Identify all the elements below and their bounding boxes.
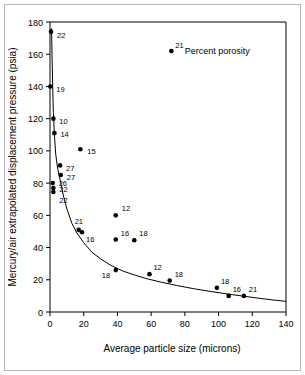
data-point-label: 27: [66, 164, 74, 173]
data-point-label: 18: [139, 229, 147, 238]
x-tick-label: 40: [112, 319, 122, 329]
data-point: [113, 213, 118, 218]
data-point-label: 16: [233, 285, 241, 294]
x-tick-label: 60: [146, 319, 156, 329]
data-point-label: 22: [59, 185, 67, 194]
x-axis-ticks: 020406080100120140: [47, 312, 293, 329]
data-point: [51, 116, 56, 121]
data-point: [215, 286, 220, 291]
y-tick-label: 60: [33, 211, 43, 221]
data-point: [80, 230, 85, 235]
data-point: [78, 147, 83, 152]
data-point: [242, 294, 247, 299]
y-tick-label: 0: [38, 308, 43, 318]
data-point-label: 21: [175, 41, 183, 50]
data-point-label: 16: [121, 229, 129, 238]
data-point-label: 15: [87, 147, 95, 156]
axis-frame: [50, 22, 286, 312]
scatter-plot-svg: 020406080100120140 020406080100120140160…: [0, 0, 305, 375]
trend-curve: [52, 28, 286, 301]
data-point: [50, 181, 55, 186]
y-axis-title: Mercury/air extrapolated displacement pr…: [7, 48, 18, 287]
x-tick-label: 80: [180, 319, 190, 329]
y-axis-ticks: 020406080100120140160180: [28, 18, 50, 318]
data-point: [58, 173, 63, 178]
y-tick-label: 140: [28, 82, 43, 92]
data-point-label: 14: [60, 130, 68, 139]
data-point-label: 12: [122, 204, 130, 213]
data-points: 2219101415272726222212211616181812181816…: [48, 29, 257, 298]
y-tick-label: 40: [33, 243, 43, 253]
data-point-label: 21: [249, 285, 257, 294]
y-tick-label: 20: [33, 275, 43, 285]
data-point: [132, 238, 137, 243]
x-axis-title: Average particle size (microns): [103, 343, 240, 354]
data-point-label: 18: [221, 277, 229, 286]
fit-line: [52, 28, 286, 301]
x-tick-label: 20: [79, 319, 89, 329]
data-point-label: 19: [56, 85, 64, 94]
data-point: [113, 237, 118, 242]
y-tick-label: 120: [28, 114, 43, 124]
y-tick-label: 100: [28, 146, 43, 156]
data-point-label: 18: [175, 270, 183, 279]
data-point-label: 27: [67, 173, 75, 182]
x-tick-label: 100: [211, 319, 226, 329]
data-point-label: 22: [59, 196, 67, 205]
data-point: [49, 29, 54, 34]
data-point: [58, 163, 63, 168]
annotation-text: Percent porosity: [185, 46, 251, 56]
data-point-label: 18: [102, 271, 110, 280]
y-tick-label: 180: [28, 18, 43, 28]
data-point-label: 16: [86, 235, 94, 244]
data-point: [226, 294, 231, 299]
data-point: [113, 268, 118, 273]
x-tick-label: 0: [47, 319, 52, 329]
chart-figure: 020406080100120140 020406080100120140160…: [0, 0, 305, 375]
data-point: [48, 84, 53, 89]
plot-frame: [50, 22, 286, 312]
x-tick-label: 120: [245, 319, 260, 329]
y-tick-label: 80: [33, 179, 43, 189]
data-point: [169, 49, 174, 54]
chart-annotations: Percent porosity: [185, 46, 251, 56]
data-point-label: 22: [57, 31, 65, 40]
data-point: [147, 272, 152, 277]
data-point: [51, 186, 56, 191]
data-point: [51, 190, 56, 195]
data-point-label: 21: [75, 217, 83, 226]
x-tick-label: 140: [278, 319, 293, 329]
data-point-label: 10: [59, 117, 67, 126]
plot-area: 020406080100120140 020406080100120140160…: [0, 0, 305, 375]
data-point: [52, 131, 57, 136]
data-point-label: 12: [153, 263, 161, 272]
data-point: [167, 278, 172, 283]
y-tick-label: 160: [28, 50, 43, 60]
